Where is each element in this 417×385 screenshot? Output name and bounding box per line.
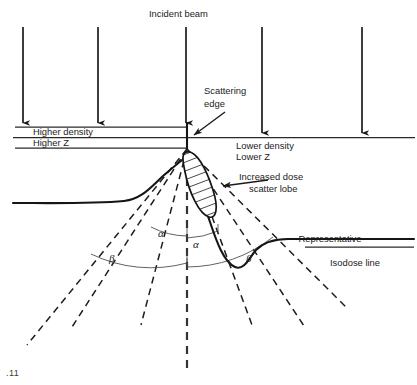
label-lower-density: Lower density [236, 140, 294, 151]
label-scatter-lobe-line2: scatter lobe [249, 183, 297, 194]
label-lower-z: Lower Z [236, 151, 270, 162]
scattering-diagram-figure: Incident beam Scattering edge Higher den… [0, 0, 417, 385]
label-scatter-lobe-line1: Increased dose [239, 171, 303, 182]
diagram-canvas: Incident beam Scattering edge Higher den… [0, 0, 417, 385]
label-higher-z: Higher Z [33, 137, 69, 148]
label-alpha-left: α [158, 227, 164, 239]
label-isodose-line2: Isodose line [330, 257, 380, 268]
label-incident-beam: Incident beam [149, 8, 208, 19]
scatter-ray-far-left [27, 149, 187, 345]
label-scattering-edge-line1: Scattering [204, 85, 246, 96]
alpha-left-arc [151, 227, 187, 236]
label-alpha-right: α [193, 238, 199, 250]
label-scattering-edge-line2: edge [204, 98, 225, 109]
label-isodose-line1: Representative [298, 233, 361, 244]
label-beta-left: β [108, 252, 115, 264]
beta-left-arc [91, 254, 187, 268]
scatter-ray-beta-left [72, 149, 187, 327]
label-beta-right: β [245, 252, 252, 264]
caption-fragment: .11 [6, 368, 19, 378]
label-higher-density: Higher density [33, 126, 93, 137]
scattering-edge-leader [194, 112, 225, 135]
incident-beam-arrows [23, 27, 362, 133]
leader-line-group [194, 112, 414, 247]
isodose-curve-left [13, 157, 186, 203]
